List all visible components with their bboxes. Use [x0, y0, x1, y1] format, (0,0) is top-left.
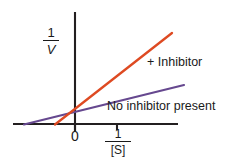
- x-axis-label-numerator: 1: [101, 128, 135, 141]
- series-label-inhibitor: + Inhibitor: [147, 56, 202, 69]
- fraction-bar-icon: [105, 141, 131, 142]
- x-axis-label: 1 [S]: [101, 128, 135, 156]
- fraction-bar-icon: [43, 40, 59, 41]
- x-axis-label-denominator: [S]: [101, 143, 135, 156]
- y-axis-label-denominator: V: [37, 42, 65, 56]
- y-axis-label: 1 V: [37, 26, 65, 56]
- y-axis-label-numerator: 1: [37, 26, 65, 40]
- origin-tick-label: 0: [66, 129, 84, 143]
- lineweaver-burk-plot-figure: 1 V 1 [S] 0 + Inhibitor No inhibitor pre…: [0, 0, 231, 163]
- series-label-no-inhibitor: No inhibitor present: [107, 100, 215, 113]
